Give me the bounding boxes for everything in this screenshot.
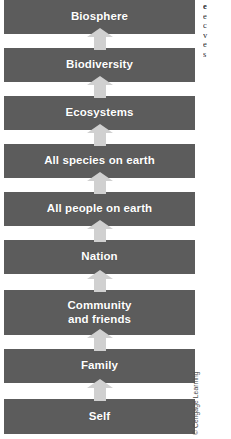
level-row: Biodiversity — [4, 48, 195, 82]
level-row: Family — [4, 349, 195, 383]
level-bar-all-species-on-earth[interactable]: All species on earth — [4, 144, 195, 178]
margin-note-line: e — [203, 12, 231, 22]
level-label: All people on earth — [47, 202, 152, 216]
level-bar-all-people-on-earth[interactable]: All people on earth — [4, 192, 195, 226]
margin-note-line: v — [203, 31, 231, 41]
bar-stack: BiosphereBiodiversityEcosystemsAll speci… — [4, 0, 195, 439]
level-row: All species on earth — [4, 144, 195, 178]
level-row: Biosphere — [4, 0, 195, 34]
level-bar-self[interactable]: Self — [4, 399, 195, 434]
level-label: Biosphere — [71, 10, 128, 24]
level-row: All people on earth — [4, 192, 195, 226]
level-row: Self — [4, 399, 195, 434]
level-label: Family — [81, 359, 118, 373]
level-label: Nation — [81, 250, 117, 264]
level-row: Community and friends — [4, 290, 195, 335]
level-bar-family[interactable]: Family — [4, 349, 195, 383]
level-bar-biosphere[interactable]: Biosphere — [4, 0, 195, 34]
margin-note-line: e — [203, 40, 231, 50]
levels-of-organization-diagram: BiosphereBiodiversityEcosystemsAll speci… — [0, 0, 231, 439]
level-row: Ecosystems — [4, 96, 195, 130]
margin-note-line: c — [203, 21, 231, 31]
copyright-credit: © Cengage Learning — [192, 371, 199, 435]
level-bar-community-and-friends[interactable]: Community and friends — [4, 290, 195, 335]
margin-note-line: e — [203, 2, 231, 12]
level-label: All species on earth — [44, 154, 155, 168]
level-label: Biodiversity — [66, 58, 133, 72]
level-bar-ecosystems[interactable]: Ecosystems — [4, 96, 195, 130]
level-label: Ecosystems — [65, 106, 133, 120]
margin-note-text: eecves — [203, 2, 231, 59]
level-bar-nation[interactable]: Nation — [4, 240, 195, 274]
margin-note-line: s — [203, 50, 231, 60]
level-row: Nation — [4, 240, 195, 274]
level-bar-biodiversity[interactable]: Biodiversity — [4, 48, 195, 82]
level-label: Self — [89, 410, 111, 424]
level-label: Community and friends — [67, 299, 131, 326]
